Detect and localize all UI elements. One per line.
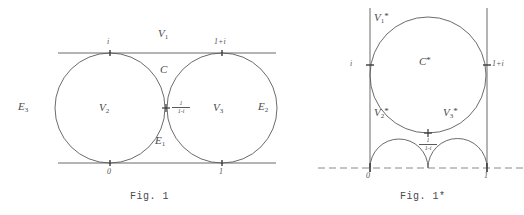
fig1star-label-v2: V2* xyxy=(374,107,389,120)
fig1-tick-label-0: 0 xyxy=(107,168,111,176)
fig1-label-e1-text: E xyxy=(155,134,162,146)
fig1-label-v3: V3 xyxy=(213,102,223,115)
fig1-fraction-denominator: 1-i xyxy=(172,108,190,114)
fig1star-tick-label-0: 0 xyxy=(366,172,370,180)
fig1star-label-v3: V3* xyxy=(443,107,458,120)
fig1-label-v2: V2 xyxy=(99,102,109,115)
fig1-label-e3-text: E xyxy=(18,100,25,112)
fig1star-tangent-fraction: 1 1-i xyxy=(419,137,437,152)
fig1-tick-label-1pi: 1+i xyxy=(214,38,226,46)
fig1star-label-c-star: * xyxy=(426,55,431,65)
fig1star-tick-label-i: i xyxy=(350,60,352,68)
fig1-label-v1: V1 xyxy=(158,28,168,41)
fig1star-label-v2-star: * xyxy=(384,106,389,116)
fig1-label-v3-text: V xyxy=(213,101,220,113)
fig1-label-e1-sub: 1 xyxy=(162,140,166,148)
fig1star-fraction-numerator: 1 xyxy=(419,137,437,143)
fig1-label-c: C xyxy=(160,64,167,75)
fig1star-label-v3-star: * xyxy=(453,106,458,116)
fig1-fraction-numerator: 1 xyxy=(172,100,190,106)
fig1-label-e3: E3 xyxy=(18,101,28,114)
fig1star-tick-label-1pi: 1+i xyxy=(492,60,504,68)
figure-canvas: V1 V2 V3 E1 E2 E3 C i 1+i 0 1 1 1-i Fig.… xyxy=(0,0,524,215)
fig1star-label-cstar: C* xyxy=(419,56,431,67)
fig1star-tick-label-1: 1 xyxy=(484,172,488,180)
fig1-tick-label-1: 1 xyxy=(219,168,223,176)
fig1-label-e2: E2 xyxy=(258,101,268,114)
fig1-label-e2-sub: 2 xyxy=(265,106,269,114)
fig1-circle-v2 xyxy=(55,53,165,163)
fig1star-label-v3-text: V xyxy=(443,106,450,118)
fig1star-label-v1-text: V xyxy=(374,11,381,23)
fig1star-fraction-denominator: 1-i xyxy=(419,145,437,151)
fig1star-label-v2-text: V xyxy=(374,106,381,118)
fig1-label-v2-sub: 2 xyxy=(106,107,110,115)
fig1-label-e1: E1 xyxy=(155,135,165,148)
fig1-label-v1-text: V xyxy=(158,27,165,39)
fig1-label-v3-sub: 3 xyxy=(220,107,224,115)
fig1-label-e2-text: E xyxy=(258,100,265,112)
fig1-label-v2-text: V xyxy=(99,101,106,113)
fig1star-label-v1: V1* xyxy=(374,12,389,25)
fig1-tangent-fraction: 1 1-i xyxy=(172,100,190,115)
fig1-label-v1-sub: 1 xyxy=(165,33,169,41)
fig1-tick-label-i: i xyxy=(107,38,109,46)
fig1star-caption: Fig. 1* xyxy=(400,192,446,202)
fig1-caption: Fig. 1 xyxy=(130,192,169,202)
fig1star-label-v1-star: * xyxy=(384,11,389,21)
fig1-label-e3-sub: 3 xyxy=(25,106,29,114)
